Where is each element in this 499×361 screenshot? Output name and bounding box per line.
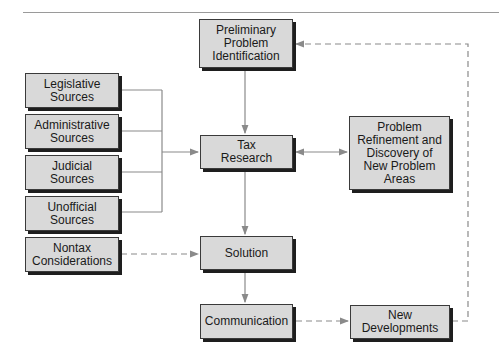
node-label: Preliminary Problem Identification [212, 24, 279, 63]
node-solution: Solution [200, 236, 293, 270]
node-new-developments: New Developments [350, 305, 450, 339]
node-nontax-considerations: Nontax Considerations [25, 237, 119, 272]
node-label: Problem Refinement and Discovery of New … [357, 121, 442, 186]
node-label: Administrative Sources [34, 119, 109, 145]
node-label: New Developments [362, 309, 439, 335]
node-tax-research: Tax Research [200, 135, 293, 169]
node-judicial-sources: Judicial Sources [25, 155, 119, 190]
node-label: Nontax Considerations [32, 242, 112, 268]
node-communication: Communication [200, 304, 293, 339]
node-problem-refinement: Problem Refinement and Discovery of New … [349, 116, 450, 190]
node-unofficial-sources: Unofficial Sources [25, 196, 119, 231]
node-label: Unofficial Sources [47, 201, 96, 227]
node-label: Solution [225, 247, 268, 260]
node-legislative-sources: Legislative Sources [25, 73, 119, 108]
node-administrative-sources: Administrative Sources [25, 114, 119, 149]
node-label: Tax Research [221, 139, 272, 165]
node-preliminary-problem-identification: Preliminary Problem Identification [199, 19, 293, 68]
node-label: Legislative Sources [44, 78, 101, 104]
node-label: Communication [205, 315, 288, 328]
node-label: Judicial Sources [50, 160, 94, 186]
